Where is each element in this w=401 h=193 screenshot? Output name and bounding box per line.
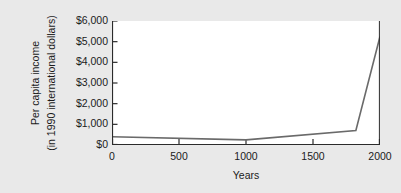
x-axis-title: Years: [112, 169, 380, 181]
x-tick-label: 0: [87, 150, 137, 162]
x-tick-label: 1500: [288, 150, 338, 162]
x-axis-tick-labels: 0500100015002000: [0, 0, 401, 193]
chart-figure: Per capita income (in 1990 international…: [0, 0, 401, 193]
x-tick-label: 1000: [221, 150, 271, 162]
x-tick-label: 2000: [355, 150, 401, 162]
x-tick-label: 500: [154, 150, 204, 162]
